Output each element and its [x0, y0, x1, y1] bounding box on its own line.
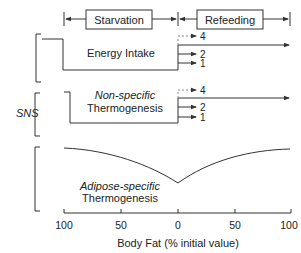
tick-label: 100 [55, 219, 73, 231]
refeeding-label: Refeeding [205, 14, 255, 26]
energy-intake-panel [36, 34, 289, 82]
curve-starvation [64, 148, 178, 183]
diagram: Starvation Refeeding Energy Intake 4 2 1… [0, 0, 301, 253]
curve-refeeding [178, 149, 290, 183]
energy-intake-label: Energy Intake [87, 47, 155, 59]
bracket [35, 147, 40, 211]
tick-label: 0 [175, 219, 181, 231]
non-specific-thermogenesis-label: Thermogenesis [87, 102, 163, 114]
outcome-1: 1 [200, 58, 206, 69]
tick-label: 50 [229, 219, 241, 231]
non-specific-label: Non-specific [95, 89, 156, 101]
adipose-specific-panel [35, 147, 290, 211]
adipose-specific-label: Adipose-specific [79, 180, 161, 192]
outcome-1: 1 [200, 112, 206, 123]
adipose-thermogenesis-label: Thermogenesis [82, 192, 158, 204]
x-axis [64, 209, 291, 213]
outcome-4: 4 [200, 85, 206, 96]
tick-label: 100 [280, 219, 298, 231]
x-axis-title: Body Fat (% initial value) [117, 237, 239, 249]
bracket [36, 34, 41, 82]
outcome-4: 4 [200, 31, 206, 42]
starvation-label: Starvation [94, 14, 144, 26]
sns-label: SNS [16, 107, 39, 119]
tick-label: 50 [115, 219, 127, 231]
